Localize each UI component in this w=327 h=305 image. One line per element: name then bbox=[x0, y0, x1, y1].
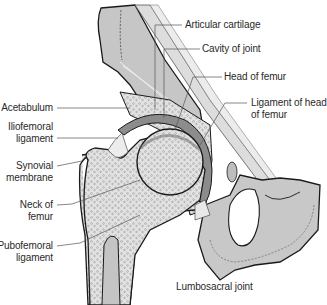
femoral-head bbox=[137, 129, 203, 195]
label-iliofemoral-ligament: Iliofemoral ligament bbox=[8, 121, 53, 145]
label-synovial-membrane: Synovial membrane bbox=[6, 160, 53, 184]
label-lumbosacral-joint: Lumbosacral joint bbox=[176, 281, 253, 293]
pubis-bone bbox=[198, 162, 320, 280]
label-acetabulum: Acetabulum bbox=[1, 102, 53, 114]
label-pubofemoral-ligament: Pubofemoral ligament bbox=[0, 240, 53, 264]
label-head-of-femur: Head of femur bbox=[224, 71, 286, 83]
label-articular-cartilage: Articular cartilage bbox=[185, 19, 260, 31]
label-ligament-of-head: Ligament of head of femur bbox=[251, 97, 327, 121]
label-neck-of-femur: Neck of femur bbox=[20, 199, 53, 223]
label-cavity-of-joint: Cavity of joint bbox=[202, 43, 261, 55]
